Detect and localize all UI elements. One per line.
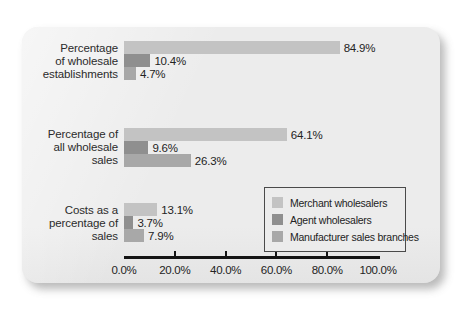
legend-label-2: Manufacturer sales branches: [290, 231, 419, 243]
bar-g1-s1: [124, 141, 148, 154]
legend-swatch-icon-0: [272, 197, 283, 208]
x-axis-line: [124, 256, 380, 259]
legend-swatch-icon-1: [272, 214, 283, 225]
legend-item-2: Manufacturer sales branches: [272, 228, 398, 245]
x-tick-label-0: 0.0%: [111, 264, 136, 276]
legend-item-1: Agent wholesalers: [272, 211, 398, 228]
bar-g2-s1: [124, 216, 133, 229]
legend-item-0: Merchant wholesalers: [272, 194, 398, 211]
legend-swatch-icon-2: [272, 231, 283, 242]
bar-g2-s2: [124, 229, 144, 242]
bar-value-g0-s0: 84.9%: [344, 42, 376, 55]
x-tick-label-2: 40.0%: [210, 264, 241, 276]
x-tick-label-1: 20.0%: [159, 264, 190, 276]
bar-value-g2-s0: 13.1%: [161, 204, 193, 217]
x-tick-2: [225, 251, 227, 256]
chart-card: Percentage of wholesale establishments P…: [22, 27, 440, 283]
chart-legend: Merchant wholesalers Agent wholesalers M…: [264, 187, 406, 252]
bar-value-g2-s1: 3.7%: [137, 217, 162, 230]
group-label-1: Percentage of all wholesale sales: [24, 128, 118, 168]
x-tick-label-3: 60.0%: [261, 264, 292, 276]
legend-label-1: Agent wholesalers: [290, 214, 372, 226]
bar-g0-s0: [124, 41, 340, 54]
bar-value-g1-s1: 9.6%: [152, 142, 177, 155]
group-label-0: Percentage of wholesale establishments: [24, 42, 118, 82]
bar-g2-s0: [124, 203, 157, 216]
chart-figure: Percentage of wholesale establishments P…: [0, 0, 472, 315]
bar-value-g0-s2: 4.7%: [140, 68, 165, 81]
x-tick-label-4: 80.0%: [312, 264, 343, 276]
plot-area: Percentage of wholesale establishments P…: [22, 27, 440, 283]
x-tick-label-5: 100.0%: [359, 264, 396, 276]
x-tick-1: [174, 251, 176, 256]
bar-value-g1-s0: 64.1%: [291, 129, 323, 142]
bar-value-g1-s2: 26.3%: [195, 155, 227, 168]
bar-g1-s0: [124, 128, 287, 141]
group-label-2: Costs as a percentage of sales: [24, 204, 118, 244]
legend-label-0: Merchant wholesalers: [290, 197, 387, 209]
bar-g0-s1: [124, 54, 150, 67]
bar-g0-s2: [124, 67, 136, 80]
bar-value-g0-s1: 10.4%: [154, 55, 186, 68]
bar-value-g2-s2: 7.9%: [148, 230, 173, 243]
bar-g1-s2: [124, 154, 191, 167]
